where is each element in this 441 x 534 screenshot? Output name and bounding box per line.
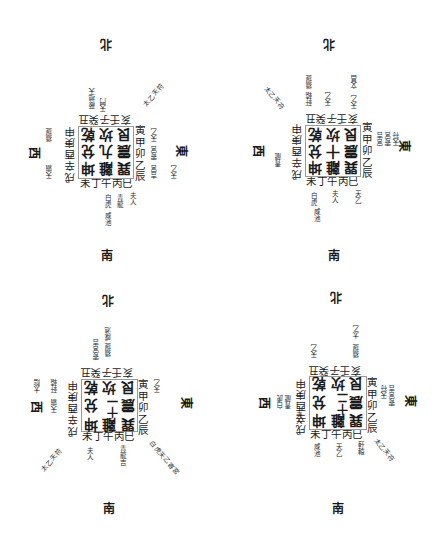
grid-cell: 坎	[329, 377, 348, 392]
annotation: 太陰	[35, 379, 42, 393]
ring-left: 戌辛酉庚申	[296, 377, 307, 435]
annotation: 青龍	[276, 153, 283, 167]
annotation: 天霸	[47, 165, 54, 179]
annotation: 太乙天符	[143, 82, 166, 108]
annotation: 太乙	[354, 325, 361, 339]
grid-cell: 兌	[79, 144, 97, 161]
grid-cell: 巽	[347, 414, 366, 429]
annotation: 蔽地天	[90, 88, 97, 109]
north-label: 北	[323, 38, 335, 50]
annotation: 天門	[101, 98, 108, 112]
ring-right: 寅甲卯乙辰	[361, 122, 372, 180]
annotation: 夫人	[294, 411, 301, 425]
annotation: 寄宮	[152, 146, 159, 160]
west-label: 西	[258, 397, 270, 409]
annotation: 宮吉	[378, 132, 385, 146]
grid-cell: 坤	[310, 414, 329, 429]
ring-right: 寅甲卯乙辰	[366, 377, 377, 435]
grid-cell: 十	[324, 143, 342, 160]
annotation: 太乙天符	[41, 447, 64, 473]
annotation: 文昌	[352, 75, 359, 89]
annotation: 青龍吉	[118, 445, 125, 466]
grid-cell: 艮	[115, 127, 133, 144]
diagram-3: 北 南 東 西 亥壬子癸丑 未丁午丙巳 戌辛酉庚申 寅甲卯乙辰 乾 坎 艮 兌 …	[0, 267, 220, 534]
ring-top: 亥壬子癸丑	[78, 114, 131, 125]
grid-cell: 兌	[306, 143, 324, 160]
grid-cell: 乾	[306, 126, 324, 143]
annotation: 天乙	[352, 95, 359, 109]
palace-grid: 乾 坎 艮 兌 十 震 坤 離 巽	[305, 125, 361, 177]
annotation: 寄宮吉	[94, 339, 101, 360]
annotation: 寄宮	[386, 132, 393, 146]
east-label: 東	[180, 397, 192, 409]
grid-cell: 艮	[347, 377, 366, 392]
palace-grid: 乾 坎 艮 兌 十二 震 坤 離 巽	[309, 376, 367, 430]
annotation: 攝提	[354, 344, 361, 358]
diagram-2: 北 南 東 西 亥壬子癸丑 未丁午丙巳 戌辛酉庚申 寅甲卯乙辰 乾 坎 艮 兌 …	[220, 0, 440, 267]
grid-cell: 離	[97, 161, 115, 178]
ring-right: 寅甲卯乙辰	[137, 379, 148, 437]
ring-bottom: 未丁午丙巳	[310, 429, 363, 440]
ring-top: 亥壬子癸丑	[305, 113, 358, 124]
annotation: 白虎	[278, 395, 285, 409]
annotation: 白虎天乙寄宮	[148, 440, 180, 476]
west-label: 西	[28, 147, 40, 159]
south-label: 南	[328, 250, 340, 262]
grid-cell: 震	[342, 143, 360, 160]
east-label: 東	[175, 145, 187, 157]
south-label: 南	[103, 503, 115, 515]
annotation: 天乙	[312, 344, 319, 358]
ring-bottom: 未丁午丙巳	[306, 176, 359, 187]
diagram-1: 北 南 東 西 亥壬子癸丑 未丁午丙巳 戌辛酉庚申 寅甲卯乙辰 乾 坎 艮 兌 …	[0, 0, 220, 267]
ring-left: 戌辛酉庚申	[292, 122, 303, 180]
annotation: 天符	[394, 132, 401, 146]
grid-cell: 離	[324, 159, 342, 176]
grid-cell: 乾	[79, 127, 97, 144]
grid-cell: 艮	[119, 380, 137, 395]
annotation: 天乙	[172, 165, 179, 179]
annotation: 青龍	[286, 395, 293, 409]
grid-cell: 乾	[82, 380, 100, 395]
grid-cell: 震	[115, 144, 133, 161]
annotation: 白虎	[103, 194, 110, 208]
grid-cell: 乾	[310, 377, 329, 392]
annotation: 夫人	[128, 192, 135, 206]
annotation: 攝提	[307, 75, 314, 89]
grid-cell: 兌	[310, 392, 329, 414]
grid-cell: 離	[329, 414, 348, 429]
north-label: 北	[102, 294, 114, 306]
ring-top: 亥壬子癸丑	[308, 365, 361, 376]
west-label: 西	[252, 145, 264, 157]
annotation: 青龍	[115, 194, 122, 208]
grid-cell: 坎	[100, 380, 118, 395]
south-label: 南	[101, 250, 113, 262]
annotation: 咸池	[312, 208, 319, 222]
south-label: 南	[332, 503, 344, 515]
annotation: 天乙	[326, 92, 333, 106]
grid-cell: 十一	[100, 395, 118, 417]
grid-cell: 巽	[342, 159, 360, 176]
annotation: 咸池	[103, 212, 110, 226]
grid-cell: 坎	[324, 126, 342, 143]
grid-cell: 兌	[82, 395, 100, 417]
ring-bottom: 未丁午丙巳	[80, 178, 133, 189]
grid-cell: 離	[100, 417, 118, 432]
annotation: 軒轅	[356, 441, 363, 455]
annotation: 咸池	[312, 443, 319, 457]
annotation: 天霸	[52, 399, 59, 413]
annotation: 軒轅	[307, 92, 314, 106]
annotation: 軒轅	[52, 379, 59, 393]
grid-cell: 艮	[342, 126, 360, 143]
annotation: 天乙	[152, 128, 159, 142]
grid-cell: 震	[347, 392, 366, 414]
annotation: 咸池	[106, 327, 113, 341]
annotation: 夫人	[330, 190, 337, 204]
ring-top: 亥壬子癸丑	[80, 367, 133, 378]
palace-grid: 乾 坎 艮 兌 九 震 坤 離 巽	[78, 126, 134, 179]
grid-cell: 坎	[97, 127, 115, 144]
annotation: 夫人	[85, 447, 92, 461]
north-label: 北	[100, 38, 112, 50]
annotation: 攝提	[47, 128, 54, 142]
grid-cell: 坤	[82, 417, 100, 432]
grid-cell: 巽	[119, 417, 137, 432]
